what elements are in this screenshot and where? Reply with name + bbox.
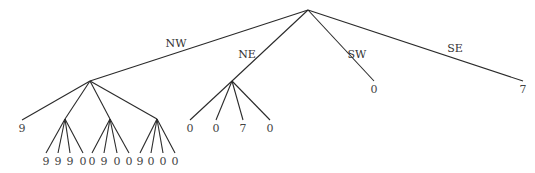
leaf-value: 0: [267, 122, 274, 135]
leaf-value: 7: [240, 122, 247, 135]
quadtree-diagram: NWNESWSE 9990090090000790070: [0, 0, 535, 173]
leaf-value: 0: [80, 155, 87, 168]
edge-ne-ne-ne: [216, 81, 232, 120]
edge-nw-sw-leaf-2: [110, 119, 117, 153]
edge-nw-nw-ne: [65, 81, 90, 119]
edge-ne-ne-nw: [190, 81, 232, 120]
edge-nw-ne-leaf-0: [46, 119, 65, 153]
leaf-value: 9: [67, 155, 74, 168]
edge-nw-ne-leaf-1: [58, 119, 65, 153]
leaf-value: 9: [55, 155, 62, 168]
edge-root-nw: [90, 10, 308, 81]
leaf-value: 9: [19, 122, 26, 135]
leaf-value: 9: [137, 155, 144, 168]
leaf-values: 9990090090000790070: [19, 83, 527, 168]
edge-root-ne: [232, 10, 308, 81]
leaf-value: 0: [187, 122, 194, 135]
leaf-value: 0: [160, 155, 167, 168]
leaf-value: 9: [43, 155, 50, 168]
leaf-value: 0: [114, 155, 121, 168]
edge-labels: NWNESWSE: [166, 37, 463, 61]
edge-nw-sw-leaf-3: [110, 119, 129, 153]
edge-nw-nw-nw: [22, 81, 90, 120]
leaf-value: 0: [371, 83, 378, 96]
edge-label-ne: NE: [238, 48, 256, 61]
leaf-value: 0: [126, 155, 133, 168]
leaf-value: 0: [148, 155, 155, 168]
leaf-value: 7: [520, 83, 527, 96]
leaf-value: 0: [172, 155, 179, 168]
edge-label-se: SE: [447, 42, 463, 55]
leaf-value: 0: [89, 155, 96, 168]
leaf-value: 9: [101, 155, 108, 168]
edge-label-sw: SW: [348, 48, 368, 61]
leaf-value: 0: [213, 122, 220, 135]
edge-label-nw: NW: [166, 37, 188, 50]
